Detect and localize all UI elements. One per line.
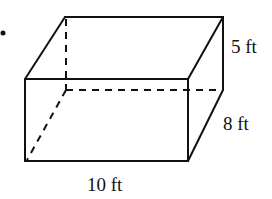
hidden-edge-bottom-left-depth [27,90,66,160]
prism-diagram: 5 ft 8 ft 10 ft [0,0,272,199]
edge-bottom-right-depth [188,90,223,161]
bullet-dot [1,31,6,36]
edge-top-left-depth [25,17,65,79]
hidden-edges [27,19,222,160]
length-label: 10 ft [87,174,123,195]
front-face [25,79,188,161]
width-label: 8 ft [223,113,250,134]
height-label: 5 ft [231,36,258,57]
edge-top-right-depth [188,17,223,79]
